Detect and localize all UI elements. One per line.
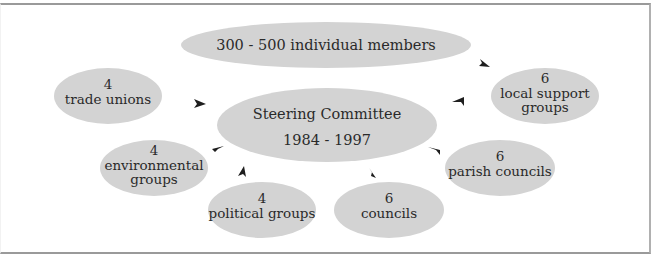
node-label: 300 - 500 individual members [216, 37, 436, 53]
node-individual-members: 300 - 500 individual members [181, 22, 471, 68]
node-count: 4 [150, 142, 159, 158]
node-count: 6 [496, 148, 505, 164]
node-count: 6 [385, 190, 394, 206]
organization-diagram: 300 - 500 individual members Steering Co… [0, 0, 658, 259]
arrowhead-icon [238, 166, 246, 177]
arrowhead-icon [194, 99, 206, 108]
node-steering-committee: Steering Committee 1984 - 1997 [217, 88, 437, 162]
center-years: 1984 - 1997 [283, 132, 371, 148]
node-count: 4 [104, 76, 113, 92]
node-label: parish councils [448, 163, 552, 179]
arrowhead-icon [212, 146, 224, 152]
arrowhead-icon [452, 97, 464, 106]
node-label-2: groups [130, 171, 178, 187]
node-count: 4 [258, 190, 267, 206]
node-label: trade unions [65, 91, 151, 107]
arrowhead-icon [428, 147, 440, 155]
node-label-2: groups [521, 99, 569, 115]
node-count: 6 [541, 70, 550, 86]
node-parish-councils: 6 parish councils [445, 140, 555, 196]
node-label: political groups [209, 205, 316, 221]
node-label: councils [361, 205, 417, 221]
center-title: Steering Committee [253, 106, 402, 122]
node-local-support-groups: 6 local support groups [491, 68, 599, 124]
node-trade-unions: 4 trade unions [54, 68, 162, 124]
node-environmental-groups: 4 environmental groups [100, 140, 208, 196]
arrowhead-icon [369, 168, 376, 178]
node-councils: 6 councils [334, 182, 444, 238]
node-political-groups: 4 political groups [208, 182, 316, 238]
arrowhead-icon [479, 59, 490, 67]
